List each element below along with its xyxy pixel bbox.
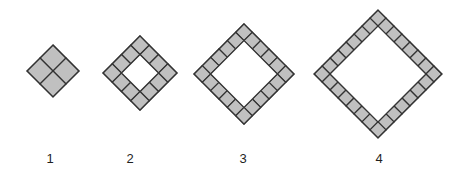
figure-label-3: 3 <box>239 151 246 166</box>
figure-label-2: 2 <box>126 151 133 166</box>
figure-label-1: 1 <box>46 151 53 166</box>
pattern-diagram: 1234 <box>0 0 464 178</box>
figure-label-4: 4 <box>375 151 382 166</box>
